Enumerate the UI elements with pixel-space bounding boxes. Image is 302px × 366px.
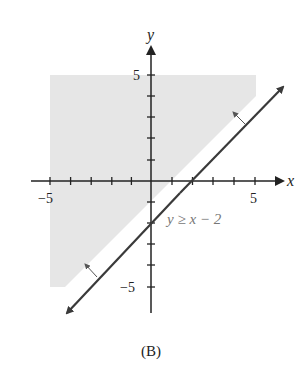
inequality-graph: y x −5 5 5 −5 y ≥ x − 2 xyxy=(0,0,302,366)
direction-arrow-lower xyxy=(85,264,97,277)
x-min-label: −5 xyxy=(38,191,53,206)
x-axis-label: x xyxy=(286,172,294,189)
y-min-label: −5 xyxy=(120,280,135,295)
inequality-label: y ≥ x − 2 xyxy=(165,211,222,227)
y-axis-label: y xyxy=(145,26,155,44)
direction-arrow-upper xyxy=(233,112,245,124)
x-max-label: 5 xyxy=(250,191,257,206)
y-max-label: 5 xyxy=(133,68,140,83)
figure-caption: (B) xyxy=(0,343,302,360)
